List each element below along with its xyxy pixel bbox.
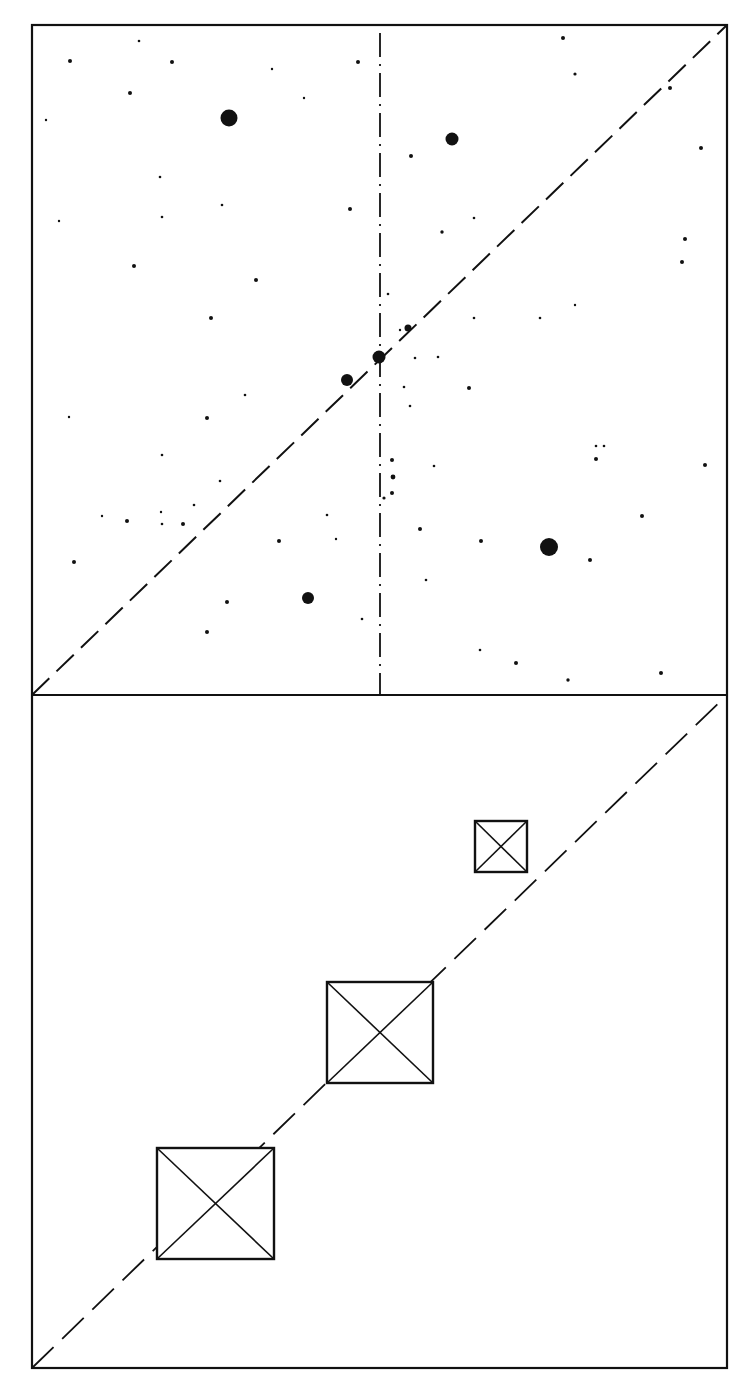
small-star-dot [205, 630, 209, 634]
small-star-dot [221, 204, 224, 207]
small-star-dot [159, 176, 162, 179]
small-star-dot [68, 59, 72, 63]
large-star-dot [221, 110, 238, 127]
crossed-box-markers [157, 821, 527, 1259]
large-star-dot [302, 592, 314, 604]
small-star-dot [440, 230, 443, 233]
small-star-dot [594, 457, 598, 461]
lower-panel-crossed-boxes [32, 695, 727, 1368]
crossed-box [327, 982, 433, 1083]
small-star-dot [640, 514, 644, 518]
small-star-dot [58, 220, 60, 222]
small-star-dot [348, 207, 352, 211]
small-star-dot [390, 491, 394, 495]
upper-panel-star-field [32, 25, 727, 695]
small-star-dot [181, 522, 185, 526]
small-star-dot [473, 217, 476, 220]
small-star-dot [479, 649, 482, 652]
small-star-dot [390, 458, 394, 462]
small-star-dot [659, 671, 663, 675]
small-star-dot [603, 445, 606, 448]
small-star-dot [680, 260, 684, 264]
frame-border [32, 25, 727, 1368]
small-star-dot [161, 523, 164, 526]
small-star-dot [193, 504, 196, 507]
outer-frame [32, 25, 727, 1368]
small-star-dot [418, 527, 422, 531]
small-star-dot [361, 618, 364, 621]
small-star-dot [566, 678, 569, 681]
small-star-dot [170, 60, 174, 64]
crossed-box [475, 821, 527, 872]
small-star-dot [391, 475, 396, 480]
small-star-dot [588, 558, 592, 562]
small-star-dot [387, 293, 390, 296]
small-star-dot [254, 278, 258, 282]
small-star-dot [409, 154, 413, 158]
small-star-dot [561, 36, 565, 40]
large-star-dot [373, 351, 386, 364]
small-star-dot [514, 661, 518, 665]
star-field-diagram [0, 0, 745, 1398]
small-star-dot [132, 264, 136, 268]
small-star-dot [209, 316, 213, 320]
small-star-dot [574, 304, 576, 306]
small-star-dot [409, 405, 412, 408]
small-star-dot [326, 514, 329, 517]
crossed-box [157, 1148, 274, 1259]
small-star-dot [703, 463, 707, 467]
large-star-dot [405, 325, 412, 332]
large-star-dot [446, 133, 459, 146]
small-star-dot [425, 579, 428, 582]
small-star-dot [335, 538, 337, 540]
large-star-dot [341, 374, 353, 386]
small-star-dot [125, 519, 129, 523]
small-star-dot [473, 317, 476, 320]
small-star-dot [399, 329, 401, 331]
small-star-dot [160, 511, 162, 513]
small-star-dot [595, 445, 598, 448]
small-star-dot [573, 72, 576, 75]
small-star-dot [244, 394, 247, 397]
small-star-dot [467, 386, 471, 390]
large-star-points [221, 110, 559, 605]
small-star-dot [128, 91, 132, 95]
small-star-dot [225, 600, 229, 604]
small-star-dot [68, 416, 70, 418]
small-star-dot [161, 454, 164, 457]
small-star-dot [683, 237, 687, 241]
small-star-dot [356, 60, 360, 64]
small-star-dot [479, 539, 483, 543]
small-star-dot [303, 97, 305, 99]
small-star-dot [101, 515, 103, 517]
small-star-dot [403, 386, 406, 389]
small-star-dot [699, 146, 703, 150]
small-star-dot [45, 119, 47, 121]
small-star-dot [433, 465, 436, 468]
small-star-dot [539, 317, 542, 320]
small-star-dot [271, 68, 273, 70]
large-star-dot [540, 538, 558, 556]
small-star-dot [161, 216, 164, 219]
diagram-canvas [0, 0, 745, 1398]
small-star-dot [414, 357, 417, 360]
small-star-dot [277, 539, 281, 543]
small-star-dot [72, 560, 76, 564]
small-star-dot [219, 480, 222, 483]
small-star-dot [668, 86, 672, 90]
small-star-dot [205, 416, 209, 420]
small-star-dot [437, 356, 440, 359]
small-star-dot [138, 40, 141, 43]
small-star-dot [382, 496, 385, 499]
